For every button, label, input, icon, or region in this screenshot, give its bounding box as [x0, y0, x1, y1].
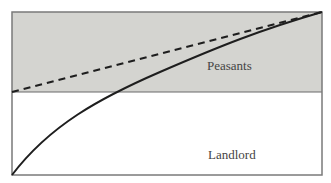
peasants-landlord-diagram: Peasants Landlord	[0, 0, 331, 183]
landlord-region	[12, 92, 322, 175]
peasants-label: Peasants	[207, 58, 252, 73]
landlord-label: Landlord	[208, 147, 256, 162]
